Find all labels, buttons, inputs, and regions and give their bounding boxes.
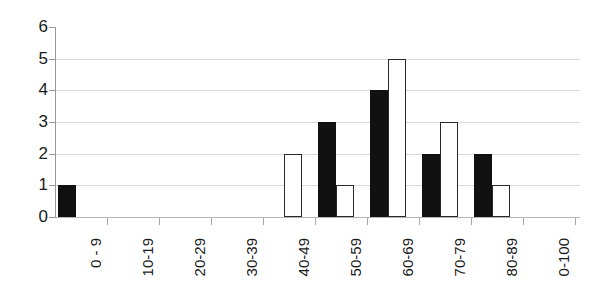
x-tick-3 [211,218,212,225]
bar-white-60-69 [388,59,406,217]
category-label-10-19: 10-19 [140,238,155,308]
bar-black-0-9 [58,185,76,217]
category-label-80-89: 80-89 [504,238,519,308]
x-tick-1 [107,218,108,225]
category-label-0-100: 0-100 [556,238,571,308]
category-label-50-59: 50-59 [348,238,363,308]
y-axis-label-6: 6 [8,18,48,35]
category-label-0-9: 0 - 9 [88,238,103,308]
plot-area [55,27,580,217]
bar-black-60-69 [370,90,388,217]
x-tick-2 [159,218,160,225]
category-label-20-29: 20-29 [192,238,207,308]
bar-white-80-89 [492,185,510,217]
x-tick-9 [523,218,524,225]
bar-black-80-89 [474,154,492,217]
x-tick-8 [471,218,472,225]
category-label-60-69: 60-69 [400,238,415,308]
bar-chart: 0123456 0 - 910-1920-2930-3940-4950-5960… [0,0,601,308]
bar-black-50-59 [318,122,336,217]
category-label-40-49: 40-49 [296,238,311,308]
y-axis-label-5: 5 [8,50,48,67]
category-label-70-79: 70-79 [452,238,467,308]
gridline-0 [55,217,580,218]
y-axis-label-0: 0 [8,208,48,225]
y-axis-label-3: 3 [8,113,48,130]
bar-black-70-79 [422,154,440,217]
x-tick-5 [315,218,316,225]
x-tick-10 [575,218,576,225]
x-tick-7 [419,218,420,225]
x-tick-6 [367,218,368,225]
bar-white-50-59 [336,185,354,217]
x-tick-4 [263,218,264,225]
bar-white-40-49 [284,154,302,217]
y-axis-label-1: 1 [8,176,48,193]
category-label-30-39: 30-39 [244,238,259,308]
y-axis-label-4: 4 [8,81,48,98]
y-axis-label-2: 2 [8,145,48,162]
bar-white-70-79 [440,122,458,217]
